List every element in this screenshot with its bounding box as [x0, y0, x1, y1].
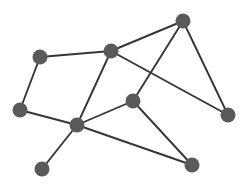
- graph-edge: [77, 51, 111, 125]
- graph-edge: [111, 21, 183, 51]
- graph-edge: [40, 51, 111, 57]
- graph-edge: [42, 125, 77, 169]
- graph-edge: [133, 21, 183, 101]
- graph-canvas: [0, 0, 246, 187]
- graph-node: [126, 94, 141, 109]
- graph-edge: [20, 57, 40, 110]
- graph-node: [185, 158, 200, 173]
- graph-node: [35, 162, 50, 177]
- graph-node: [104, 44, 119, 59]
- graph-node: [221, 108, 236, 123]
- graph-node: [70, 118, 85, 133]
- graph-edge: [20, 110, 77, 125]
- graph-edge: [183, 21, 228, 115]
- graph-node: [33, 50, 48, 65]
- graph-node: [176, 14, 191, 29]
- node-layer: [13, 14, 236, 177]
- graph-figure: [0, 0, 246, 187]
- graph-node: [13, 103, 28, 118]
- edge-layer: [20, 21, 228, 169]
